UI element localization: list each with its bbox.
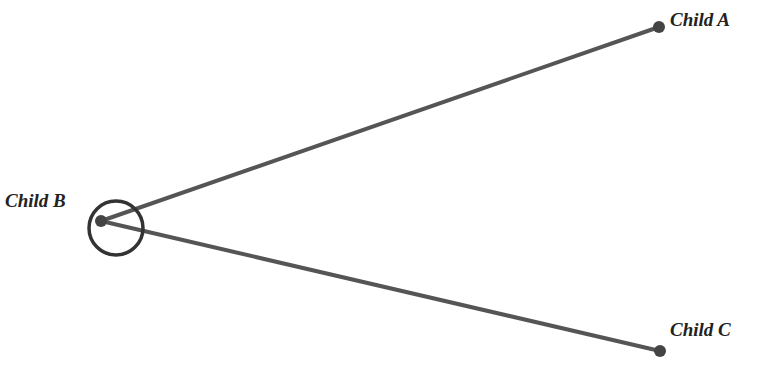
labels: Child A Child B Child C (5, 9, 731, 340)
node-child-a[interactable] (653, 21, 665, 33)
label-child-b: Child B (5, 190, 66, 211)
edges (101, 27, 660, 351)
node-child-b[interactable] (95, 215, 107, 227)
tree-diagram: Child A Child B Child C (0, 0, 760, 378)
label-child-a: Child A (670, 9, 730, 30)
edge-b-to-a (101, 27, 659, 221)
edge-b-to-c (101, 221, 660, 351)
nodes (95, 21, 666, 357)
node-child-c[interactable] (654, 345, 666, 357)
label-child-c: Child C (670, 319, 731, 340)
